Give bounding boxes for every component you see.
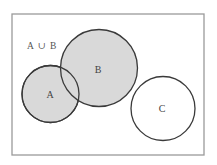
set-a-label: A <box>46 89 54 100</box>
venn-diagram: A ∪ B A B C <box>0 0 217 165</box>
union-label: A ∪ B <box>27 41 57 51</box>
set-b-label: B <box>95 64 102 75</box>
set-c-label: C <box>159 103 166 114</box>
